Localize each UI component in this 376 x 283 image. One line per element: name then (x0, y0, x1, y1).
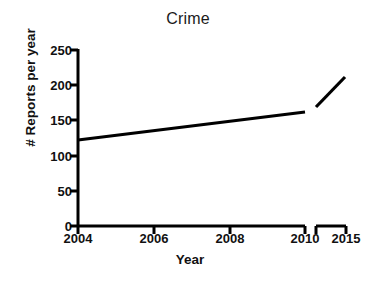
data-line-segment-1 (78, 112, 305, 140)
plot-area (0, 0, 376, 283)
chart-figure: Crime # Reports per year Year 0 50 100 1… (0, 0, 376, 283)
data-line-segment-2 (316, 77, 345, 107)
